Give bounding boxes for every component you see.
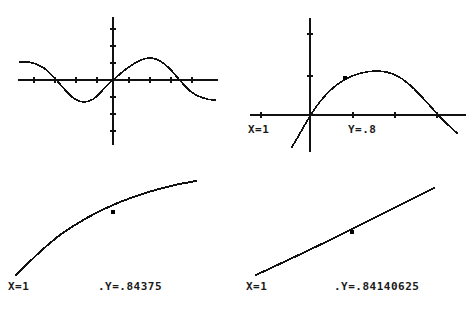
trace-cursor	[111, 210, 115, 214]
panel-full-sine-view	[0, 0, 238, 157]
panel-zoom-1-view: X=1 Y=.8	[238, 0, 476, 157]
trace-cursor	[350, 230, 354, 234]
graph-full-sine-view	[0, 0, 238, 157]
panel-zoom-2-view: X=1 .Y=.84375	[0, 157, 238, 314]
sine-curve	[256, 188, 434, 275]
readout-y-value: .Y=.84140625	[334, 281, 419, 292]
trace-cursor	[343, 76, 347, 80]
readout-y-value: .Y=.84375	[98, 281, 162, 292]
readout-y-value: Y=.8	[348, 124, 377, 135]
sine-curve	[16, 181, 196, 275]
readout-x-value: X=1	[248, 124, 269, 135]
readout-x-value: X=1	[246, 281, 267, 292]
panel-zoom-3-view: X=1 .Y=.84140625	[238, 157, 476, 314]
readout-x-value: X=1	[8, 281, 29, 292]
